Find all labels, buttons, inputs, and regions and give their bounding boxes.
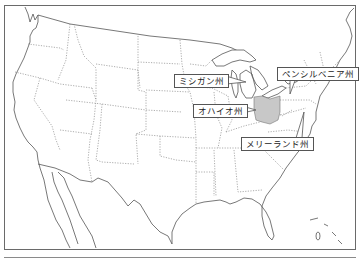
island <box>316 232 320 240</box>
maryland-leader <box>296 112 304 138</box>
label-pennsylvania: ペンシルベニア州 <box>277 67 359 81</box>
baja-inner <box>52 172 78 244</box>
canada-border <box>38 15 240 52</box>
lake-michigan <box>231 70 238 98</box>
state-borders <box>15 24 340 204</box>
ohio-state-shape <box>254 96 280 124</box>
mexico-mainland <box>58 172 96 248</box>
bottom-rule <box>4 257 356 258</box>
label-maryland: メリーランド州 <box>241 137 314 151</box>
gulf-coast <box>172 8 354 244</box>
mexico-border <box>38 164 172 244</box>
label-michigan: ミシガン州 <box>174 74 229 88</box>
bahamas <box>310 218 342 244</box>
lake-superior <box>212 50 256 66</box>
us-map <box>0 0 361 263</box>
west-coast <box>13 7 40 168</box>
label-ohio: オハイオ州 <box>193 104 248 118</box>
